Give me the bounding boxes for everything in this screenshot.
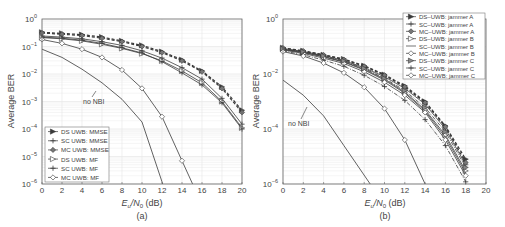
x-tick-label: 6	[342, 186, 347, 195]
x-tick-label: 14	[178, 186, 187, 195]
x-tick-label: 16	[198, 186, 207, 195]
diamond-marker	[159, 114, 164, 119]
legend-entry: SC–UWB: jammer B	[419, 44, 474, 50]
annotation-arrow-a	[92, 91, 96, 97]
x-axis-label-a: Eu/N0 (dB)	[121, 198, 162, 209]
x-tick-label: 8	[120, 186, 125, 195]
x-axis-label-b: Eu/N0 (dB)	[364, 198, 405, 209]
legend-entry: DS–UWB: jammer B	[419, 36, 474, 42]
legend-entry: SC–UWB: jammer C	[419, 66, 475, 72]
x-tick-label: 2	[301, 186, 306, 195]
legend-entry: SC UWB: MF	[61, 165, 98, 172]
y-tick-label: 10−6	[22, 178, 37, 189]
x-tick-label: 0	[281, 186, 286, 195]
plus-marker	[402, 98, 407, 103]
x-tick-label: 10	[138, 186, 147, 195]
diamond-marker	[99, 55, 104, 60]
annotation-arrow-b	[301, 107, 307, 119]
legend-entry: MC–UWB: jammer A	[419, 29, 474, 35]
legend-entry: SC–UWB: jammer A	[419, 22, 473, 28]
legend-entry: MC UWB: MMSE	[61, 146, 109, 153]
x-tick-label: 16	[441, 186, 450, 195]
x-tick-label: 4	[321, 186, 326, 195]
legend-entry: DS UWB: MF	[61, 156, 98, 163]
panel-label-b: (b)	[380, 211, 391, 221]
y-axis-label-a: Average BER	[6, 73, 16, 128]
y-tick-label: 10−2	[22, 68, 37, 79]
x-tick-label: 18	[218, 186, 227, 195]
diamond-marker	[59, 41, 64, 46]
x-tick-label: 0	[40, 186, 45, 195]
y-tick-label: 10−3	[22, 96, 37, 107]
y-tick-label: 10−5	[22, 151, 37, 162]
x-tick-label: 6	[100, 186, 105, 195]
legend-entry: DS–UWB: jammer A	[419, 14, 473, 20]
legend-entry: MC–UWB: jammer B	[419, 51, 475, 57]
x-tick-label: 12	[400, 186, 409, 195]
y-tick-label: 10−2	[263, 68, 278, 79]
plus-marker	[362, 73, 367, 78]
x-tick-label: 4	[80, 186, 85, 195]
legend-b: DS–UWB: jammer ASC–UWB: jammer AMC–UWB: …	[403, 13, 485, 79]
diamond-marker	[79, 47, 84, 52]
annotation-no-nbi-a: no NBI	[83, 98, 104, 105]
x-tick-label: 2	[60, 186, 65, 195]
x-tick-label: 8	[362, 186, 367, 195]
figure: 0246810121416182010010−110−210−310−410−5…	[0, 0, 505, 227]
legend-entry: DS UWB: MMSE	[61, 128, 108, 135]
y-tick-label: 10−4	[263, 123, 278, 134]
annotation-no-nbi-b: no NBI	[288, 120, 309, 127]
x-tick-label: 20	[482, 186, 491, 195]
x-tick-label: 18	[461, 186, 470, 195]
x-tick-label: 14	[421, 186, 430, 195]
x-tick-label: 10	[380, 186, 389, 195]
legend-entry: MC UWB: MF	[61, 174, 99, 181]
diamond-marker	[402, 137, 407, 142]
diamond-marker	[321, 60, 326, 65]
y-tick-label: 100	[25, 13, 37, 24]
diamond-marker	[463, 173, 468, 178]
panel-b-chart: 0246810121416182010010−210−410−6 Average…	[251, 13, 491, 221]
diamond-marker	[341, 70, 346, 75]
legend-entry: SC UWB: MMSE	[61, 137, 108, 144]
y-axis-label-b: Average BER	[251, 73, 261, 128]
y-tick-label: 10−6	[263, 178, 278, 189]
y-tick-label: 10−4	[22, 123, 37, 134]
series-line	[283, 80, 370, 184]
legend-entry: MC–UWB: jammer C	[419, 73, 476, 79]
x-tick-label: 20	[238, 186, 247, 195]
legend-entry: DS–UWB: jammer C	[419, 58, 475, 64]
legend-a: DS UWB: MMSESC UWB: MMSEMC UWB: MMSEDS U…	[45, 127, 109, 182]
panel-label-a: (a)	[137, 211, 148, 221]
y-tick-label: 10−1	[22, 41, 37, 52]
panel-a-chart: 0246810121416182010010−110−210−310−410−5…	[6, 13, 247, 221]
x-tick-label: 12	[158, 186, 167, 195]
y-tick-label: 100	[266, 13, 278, 24]
